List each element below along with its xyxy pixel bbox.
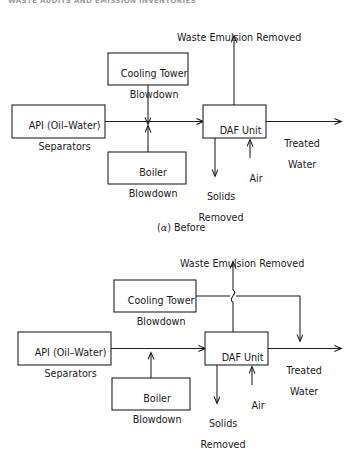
treated-water-label-b: Treated Water	[268, 355, 328, 409]
api-line1: API (Oil–Water)	[29, 120, 101, 131]
caption-suffix-a: ) Before	[167, 222, 205, 233]
cooling-tower-line1-b: Cooling Tower	[128, 295, 195, 306]
treated-water-label-a: Treated Water	[266, 128, 326, 182]
cooling-tower-line2-b: Blowdown	[137, 316, 186, 327]
solids-line2-b: Removed	[201, 439, 246, 450]
air-text-b: Air	[252, 400, 265, 411]
box-label-daf-unit-a: DAF Unit	[203, 115, 266, 147]
boiler-line2: Blowdown	[129, 188, 178, 199]
wire-hop-icon	[231, 290, 234, 302]
box-label-daf-unit-b: DAF Unit	[205, 342, 268, 374]
boiler-line1: Boiler	[139, 167, 167, 178]
treated-water-line2-a: Water	[288, 159, 316, 170]
treated-water-line1-b: Treated	[286, 365, 322, 376]
waste-emulsion-text-b: Waste Emulsion Removed	[180, 258, 304, 269]
waste-emulsion-removed-label-b: Waste Emulsion Removed	[156, 248, 316, 280]
treated-water-line1-a: Treated	[284, 138, 320, 149]
box-label-cooling-tower-blowdown-a: Cooling Tower Blowdown	[108, 58, 188, 112]
daf-line1-b: DAF Unit	[222, 352, 264, 363]
api-line2-b: Separators	[44, 368, 96, 379]
api-line2: Separators	[38, 141, 90, 152]
waste-emulsion-removed-label-a: Waste Emulsion Removed	[153, 22, 313, 54]
boiler-line1-b: Boiler	[143, 393, 171, 404]
cooling-tower-line1: Cooling Tower	[121, 68, 188, 79]
solids-removed-label-b: Solids Removed	[182, 408, 252, 452]
figure-a-caption: (α) Before	[115, 212, 235, 244]
air-text-a: Air	[250, 173, 263, 184]
box-label-api-separators-a: API (Oil–Water) Separators	[12, 110, 105, 164]
box-label-api-separators-b: API (Oil–Water) Separators	[18, 337, 111, 391]
boiler-line2-b: Blowdown	[133, 414, 182, 425]
treated-water-line2-b: Water	[290, 386, 318, 397]
box-label-cooling-tower-blowdown-b: Cooling Tower Blowdown	[114, 285, 196, 339]
api-line1-b: API (Oil–Water)	[35, 347, 107, 358]
solids-line1-a: Solids	[207, 191, 235, 202]
box-label-boiler-blowdown-b: Boiler Blowdown	[112, 383, 190, 437]
solids-line1-b: Solids	[209, 418, 237, 429]
cooling-tower-line2: Blowdown	[130, 89, 179, 100]
box-label-boiler-blowdown-a: Boiler Blowdown	[108, 157, 186, 211]
waste-emulsion-text-a: Waste Emulsion Removed	[177, 32, 301, 43]
daf-line1: DAF Unit	[220, 125, 262, 136]
